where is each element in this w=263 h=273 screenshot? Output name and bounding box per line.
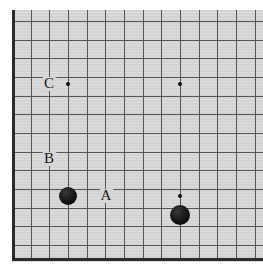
label-b: B <box>41 151 57 166</box>
go-diagram-screenshot: ABC <box>0 0 263 273</box>
label-a: A <box>98 188 114 203</box>
black-stone-2[interactable] <box>170 205 190 225</box>
go-board: ABC <box>0 0 263 273</box>
black-stone-1[interactable] <box>59 187 77 205</box>
board-grid <box>0 0 263 273</box>
label-c: C <box>41 76 57 91</box>
grid-lines <box>12 10 263 259</box>
